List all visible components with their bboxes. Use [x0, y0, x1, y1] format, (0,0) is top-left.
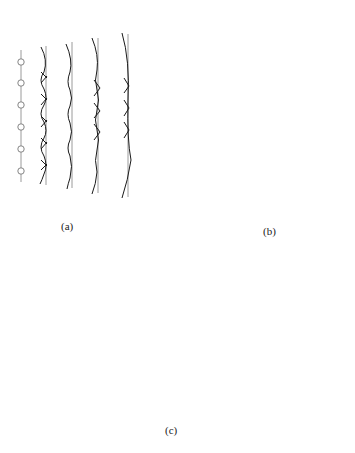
wavelet-envelopes [40, 33, 131, 198]
plane-wavefronts-gray [46, 34, 128, 197]
panel-label-b: (b) [263, 225, 276, 237]
panel-label-a: (a) [61, 220, 73, 232]
panel-a [18, 33, 131, 198]
huygens-diagram [0, 0, 355, 453]
panel-label-c: (c) [165, 424, 177, 436]
